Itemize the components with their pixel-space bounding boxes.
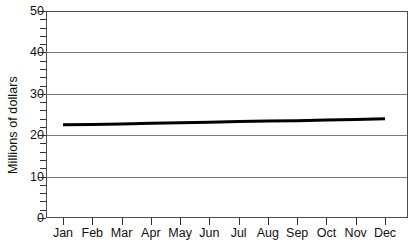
y-tick-minor-16 (40, 152, 46, 153)
x-tick-label-jul: Jul (231, 226, 247, 240)
x-tick-oct (326, 218, 327, 225)
x-tick-label-oct: Oct (317, 226, 336, 240)
y-tick-label-20: 20 (14, 128, 44, 142)
y-tick-minor-42 (40, 44, 46, 45)
plot-area (46, 11, 408, 218)
y-tick-label-10: 10 (14, 170, 44, 184)
y-tick-minor-28 (40, 102, 46, 103)
x-tick-dec (385, 218, 386, 225)
line-chart: Millions of dollars 01020304050 JanFebMa… (0, 0, 414, 250)
y-tick-label-30: 30 (14, 87, 44, 101)
x-tick-label-mar: Mar (111, 226, 133, 240)
y-tick-minor-34 (40, 77, 46, 78)
x-tick-aug (268, 218, 269, 225)
x-tick-label-aug: Aug (257, 226, 279, 240)
y-tick-label-50: 50 (14, 4, 44, 18)
y-tick-minor-38 (40, 61, 46, 62)
x-tick-apr (151, 218, 152, 225)
x-tick-sep (297, 218, 298, 225)
x-tick-jul (239, 218, 240, 225)
y-tick-minor-12 (40, 168, 46, 169)
y-tick-minor-32 (40, 86, 46, 87)
x-tick-label-dec: Dec (374, 226, 396, 240)
x-tick-may (180, 218, 181, 225)
y-tick-minor-14 (40, 160, 46, 161)
x-tick-feb (92, 218, 93, 225)
y-tick-minor-8 (40, 185, 46, 186)
x-tick-jun (209, 218, 210, 225)
gridline-y-20 (47, 135, 407, 136)
x-tick-label-sep: Sep (286, 226, 308, 240)
x-tick-jan (63, 218, 64, 225)
y-tick-minor-4 (40, 201, 46, 202)
x-tick-label-nov: Nov (345, 226, 367, 240)
y-tick-minor-22 (40, 127, 46, 128)
y-tick-label-40: 40 (14, 45, 44, 59)
x-tick-mar (122, 218, 123, 225)
y-tick-minor-24 (40, 119, 46, 120)
y-tick-minor-46 (40, 28, 46, 29)
x-tick-label-apr: Apr (141, 226, 160, 240)
y-tick-minor-18 (40, 143, 46, 144)
x-tick-label-jan: Jan (53, 226, 73, 240)
y-tick-minor-36 (40, 69, 46, 70)
x-tick-label-feb: Feb (81, 226, 103, 240)
x-tick-label-may: May (168, 226, 192, 240)
x-tick-nov (356, 218, 357, 225)
y-tick-minor-2 (40, 210, 46, 211)
gridline-y-10 (47, 177, 407, 178)
x-tick-label-jun: Jun (199, 226, 219, 240)
gridline-y-30 (47, 94, 407, 95)
y-tick-minor-48 (40, 19, 46, 20)
gridline-y-40 (47, 52, 407, 53)
y-tick-minor-26 (40, 110, 46, 111)
y-tick-minor-6 (40, 193, 46, 194)
y-tick-label-0: 0 (14, 211, 44, 225)
y-tick-minor-44 (40, 36, 46, 37)
